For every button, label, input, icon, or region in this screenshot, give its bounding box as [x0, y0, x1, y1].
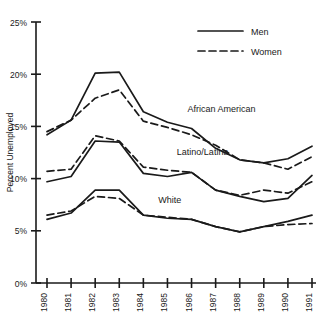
- x-tick-label: 1981: [63, 293, 73, 312]
- series-line: [47, 136, 312, 196]
- x-tick-label: 1984: [135, 293, 145, 312]
- y-axis-title: Percent Unemployed: [5, 113, 15, 193]
- legend-label-men: Men: [251, 27, 269, 37]
- series-group-label: African American: [187, 104, 255, 114]
- y-tick-label: 0%: [15, 279, 28, 289]
- unemployment-line-chart: 0%5%10%15%20%25% 19801981198219831984198…: [0, 0, 327, 325]
- series-line: [47, 90, 312, 169]
- y-tick-label: 5%: [15, 226, 28, 236]
- y-tick-label: 25%: [10, 18, 27, 28]
- x-tick-label: 1988: [232, 293, 242, 312]
- x-tick-label: 1980: [39, 293, 49, 312]
- x-tick-label: 1985: [159, 293, 169, 312]
- series-group-label: Latino/Latina: [177, 147, 229, 157]
- x-tick-label: 1991: [304, 293, 314, 312]
- x-tick-label: 1989: [256, 293, 266, 312]
- chart-plot-area: 0%5%10%15%20%25% 19801981198219831984198…: [0, 0, 327, 325]
- x-tick-label: 1983: [111, 293, 121, 312]
- y-tick-label: 20%: [10, 70, 27, 80]
- series-annotations: African AmericanLatino/LatinaWhite: [158, 104, 255, 205]
- x-axis: 1980198119821983198419851986198719881989…: [36, 278, 316, 312]
- legend-label-women: Women: [251, 47, 282, 57]
- x-tick-label: 1987: [208, 293, 218, 312]
- series-group-label: White: [158, 195, 181, 205]
- y-axis-title-text: Percent Unemployed: [5, 113, 15, 193]
- x-tick-label: 1990: [280, 293, 290, 312]
- x-tick-label: 1986: [184, 293, 194, 312]
- chart-legend: MenWomen: [198, 27, 282, 57]
- x-tick-label: 1982: [87, 293, 97, 312]
